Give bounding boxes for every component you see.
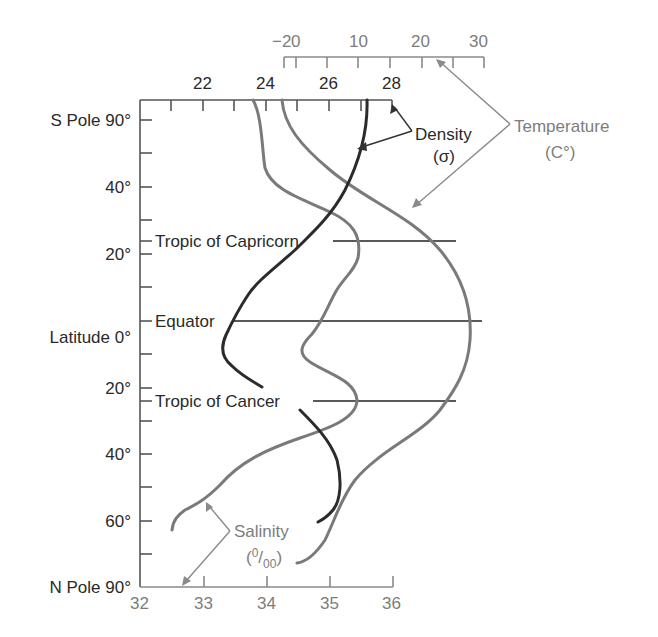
- salinity-tick-label: 33: [194, 594, 213, 613]
- salinity-tick-label: 34: [257, 594, 276, 613]
- salinity-unit-close: ): [276, 548, 282, 567]
- density-unit-label: (σ): [433, 147, 455, 166]
- temperature-tick-label: 0: [291, 32, 300, 51]
- salinity-annotation: Salinity (0/00): [182, 502, 289, 586]
- density-tick-label: 22: [193, 74, 212, 93]
- density-tick-label: 26: [319, 74, 338, 93]
- temperature-tick-label: 10: [349, 32, 368, 51]
- tropic-capricorn-label: Tropic of Capricorn: [155, 232, 299, 251]
- temperature-unit-label: (C°): [545, 143, 575, 162]
- temperature-tick-label: −2: [272, 32, 291, 51]
- density-curve: [223, 100, 367, 522]
- density-axis: 22 24 26 28: [140, 74, 401, 111]
- density-annotation: Density (σ): [357, 104, 472, 166]
- latitude-label-s20: 20°: [105, 245, 131, 264]
- latitude-label-s90: S Pole 90°: [50, 111, 131, 130]
- temperature-tick-label: 20: [411, 32, 430, 51]
- ocean-properties-chart: −2 0 10 20 30 22 24 26 28: [0, 0, 658, 637]
- tropic-cancer-label: Tropic of Cancer: [155, 392, 280, 411]
- latitude-label-n20: 20°: [105, 379, 131, 398]
- temperature-axis: −2 0 10 20 30: [272, 32, 488, 68]
- salinity-tick-label: 36: [382, 594, 401, 613]
- salinity-unit-sub: 00: [263, 557, 277, 571]
- density-tick-label: 24: [256, 74, 275, 93]
- arrowhead-icon: [412, 198, 422, 208]
- temperature-curve: [282, 100, 470, 563]
- salinity-label: Salinity: [234, 522, 289, 541]
- density-tick-label: 28: [382, 74, 401, 93]
- latitude-label-n40: 40°: [105, 445, 131, 464]
- equator-label-group: Equator: [155, 312, 215, 331]
- tropic-cancer-label-group: Tropic of Cancer: [155, 392, 280, 411]
- latitude-label-n60: 60°: [105, 512, 131, 531]
- temperature-label: Temperature: [514, 117, 609, 136]
- salinity-axis: 32 33 34 35 36: [130, 576, 401, 613]
- salinity-tick-label: 35: [320, 594, 339, 613]
- latitude-label-0: Latitude 0°: [50, 328, 131, 347]
- tropic-capricorn-label-group: Tropic of Capricorn: [155, 232, 299, 251]
- latitude-axis: S Pole 90° 40° 20° Latitude 0° 20° 40° 6…: [50, 100, 152, 597]
- density-label: Density: [415, 125, 472, 144]
- salinity-tick-label: 32: [130, 594, 149, 613]
- latitude-label-n90: N Pole 90°: [50, 578, 131, 597]
- salinity-unit-label: (0/00): [246, 546, 282, 571]
- temperature-tick-label: 30: [469, 32, 488, 51]
- latitude-label-s40: 40°: [105, 178, 131, 197]
- equator-label: Equator: [155, 312, 215, 331]
- reference-lines: [232, 241, 482, 401]
